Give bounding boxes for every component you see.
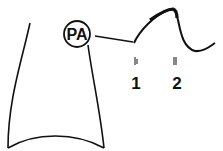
waveform-shading [150,9,177,20]
marker-2-label: 2 [172,74,181,93]
marker-2-tick [174,57,176,65]
left-wall [8,23,30,148]
connector-line [95,36,133,42]
bottom-edge [8,136,104,148]
right-wall [88,45,104,148]
marker-1-label: 1 [131,74,140,93]
pressure-waveform [134,9,215,51]
marker-1-tick [135,57,137,65]
pa-label: PA [66,26,87,43]
diagram-canvas: PA 1 2 [0,0,223,151]
